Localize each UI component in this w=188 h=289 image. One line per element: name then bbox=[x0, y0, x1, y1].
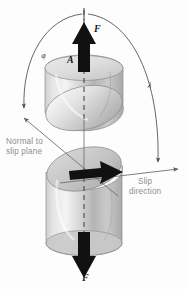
normal-to-slip-plane-label: Normal to slip plane bbox=[6, 137, 43, 156]
force-label-top: F bbox=[94, 23, 101, 34]
figure-canvas: Normal to slip plane Slip direction F F … bbox=[0, 0, 188, 289]
area-label: A bbox=[67, 54, 74, 65]
slip-direction-label: Slip direction bbox=[129, 177, 161, 196]
force-label-bottom: F bbox=[82, 272, 89, 283]
